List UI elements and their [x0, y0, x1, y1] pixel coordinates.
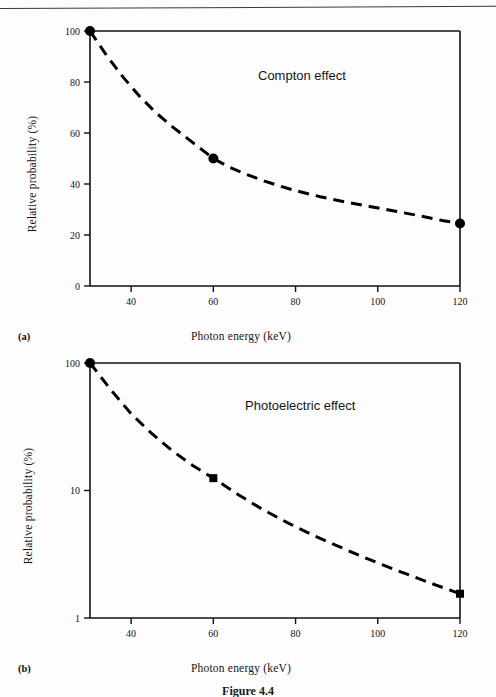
y-tick-label: 0 [75, 281, 80, 292]
x-tick-label: 40 [126, 628, 136, 639]
y-tick-label: 100 [65, 358, 80, 369]
y-tick-label: 80 [70, 77, 80, 88]
figure-page: 406080100120020406080100 Relative probab… [0, 0, 496, 697]
plot-annotation-compton: Compton effect [258, 68, 346, 83]
data-marker [209, 474, 217, 482]
figure-panel-a: 406080100120020406080100 Relative probab… [0, 18, 496, 348]
y-axis-title-a: Relative probability (%) [26, 94, 38, 254]
data-marker [208, 154, 218, 164]
x-tick-label: 80 [291, 296, 301, 307]
x-axis-title-b: Photon energy (keV) [36, 662, 446, 674]
data-marker [85, 358, 95, 368]
panel-label-a: (a) [18, 331, 30, 342]
x-axis-title-a: Photon energy (keV) [36, 330, 446, 342]
x-tick-label: 120 [453, 628, 468, 639]
x-tick-label: 100 [370, 628, 385, 639]
page-top-rule [0, 6, 496, 9]
y-tick-label: 20 [70, 230, 80, 241]
figure-panel-b: 406080100120110100 Relative probability … [0, 350, 496, 680]
x-tick-label: 60 [208, 628, 218, 639]
y-tick-label: 40 [70, 179, 80, 190]
y-axis-title-b: Relative probability (%) [22, 426, 34, 586]
x-tick-label: 100 [370, 296, 385, 307]
plot-annotation-photoelectric: Photoelectric effect [245, 398, 355, 413]
photoelectric-effect-plot: 406080100120110100 [0, 350, 496, 640]
data-curve [90, 31, 460, 224]
x-tick-label: 80 [291, 628, 301, 639]
panel-label-b: (b) [18, 663, 31, 674]
y-tick-label: 1 [75, 613, 80, 624]
x-tick-label: 40 [126, 296, 136, 307]
y-tick-label: 100 [65, 26, 80, 37]
figure-caption: Figure 4.4 [0, 684, 496, 697]
data-marker [85, 26, 95, 36]
y-tick-label: 10 [70, 485, 80, 496]
data-marker [456, 590, 464, 598]
data-marker [455, 219, 465, 229]
y-tick-label: 60 [70, 128, 80, 139]
x-tick-label: 60 [208, 296, 218, 307]
x-tick-label: 120 [453, 296, 468, 307]
compton-effect-plot: 406080100120020406080100 [0, 18, 496, 308]
